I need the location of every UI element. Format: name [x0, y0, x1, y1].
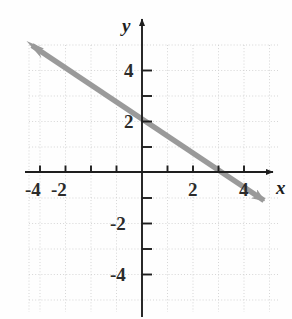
- y-tick-label-neg4: -4: [110, 265, 126, 284]
- y-tick-label-2: 2: [124, 112, 134, 131]
- x-tick-label-neg4: -4: [25, 180, 41, 199]
- coordinate-plane: [0, 0, 292, 319]
- graph-figure: -4 -2 2 4 4 2 -2 -4 y x: [0, 0, 292, 319]
- x-tick-label-4: 4: [239, 180, 249, 199]
- x-tick-label-neg2: -2: [51, 180, 67, 199]
- y-tick-label-4: 4: [124, 61, 134, 80]
- y-tick-label-neg2: -2: [110, 214, 126, 233]
- x-tick-label-2: 2: [188, 180, 198, 199]
- y-axis-label: y: [122, 16, 130, 35]
- x-axis-label: x: [276, 178, 286, 197]
